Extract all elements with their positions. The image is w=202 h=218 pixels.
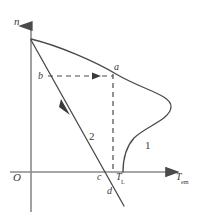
axis-label-n: n	[14, 16, 20, 27]
point-label-d: d	[107, 186, 112, 196]
curve-label-2: 2	[89, 131, 95, 142]
transition-direction-arrow	[92, 73, 101, 80]
axis-label-origin: O	[13, 172, 21, 183]
motor-characteristic-curve	[31, 39, 171, 172]
curve-label-1: 1	[145, 140, 151, 151]
point-label-c: c	[97, 172, 101, 182]
tem-subscript: em	[181, 178, 189, 185]
point-label-b: b	[38, 71, 43, 81]
point-label-a: a	[114, 62, 119, 72]
load-line	[31, 40, 124, 206]
axis-label-tem: Tem	[176, 172, 189, 184]
load-torque-label: TL	[116, 172, 125, 184]
figure-canvas: n O a b c d 1 2 TL Tem	[0, 0, 202, 218]
figure-drawing	[0, 0, 202, 218]
load-torque-subscript: L	[121, 178, 125, 185]
